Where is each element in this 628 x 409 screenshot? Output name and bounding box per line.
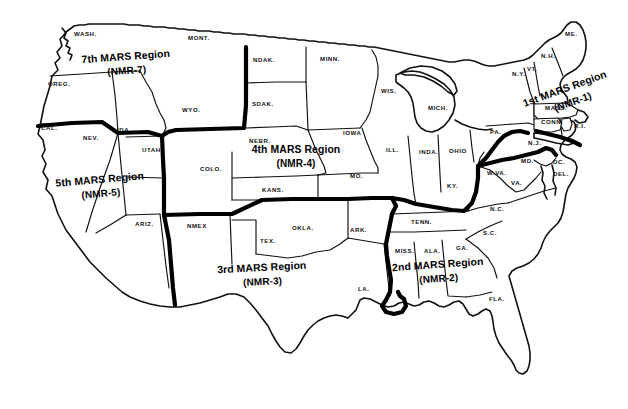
state-label: IDA. bbox=[117, 126, 131, 133]
region-boundary-mississippi bbox=[382, 198, 406, 314]
region-label-nmr-4: 4th MARS Region(NMR-4) bbox=[252, 144, 341, 169]
state-label: UTAH bbox=[142, 146, 161, 153]
puget-sound-coast bbox=[62, 28, 72, 60]
state-label: N.J. bbox=[528, 139, 541, 146]
border-nd-sd bbox=[246, 82, 306, 83]
region-name: 5th MARS Region bbox=[55, 170, 144, 189]
state-label: NDAK. bbox=[253, 56, 275, 63]
state-label: CONN. bbox=[541, 118, 563, 125]
region-name: 7th MARS Region bbox=[81, 48, 170, 65]
state-label: ME. bbox=[565, 30, 577, 37]
lake-erie-shore bbox=[455, 120, 492, 130]
border-ind-ohio bbox=[438, 135, 441, 192]
state-label: WASH. bbox=[74, 30, 97, 37]
state-label: ARIZ. bbox=[135, 220, 154, 227]
border-ohio-pa bbox=[470, 130, 474, 162]
border-ut-az bbox=[126, 214, 160, 215]
region-boundary-4-3 bbox=[164, 198, 392, 215]
region-label-nmr-3: 3rd MARS Region(NMR-3) bbox=[217, 260, 307, 290]
border-nmex-tex bbox=[230, 214, 232, 264]
region-boundary-5-3 bbox=[164, 178, 175, 305]
state-label: R.I. bbox=[574, 122, 586, 129]
state-label: MINN. bbox=[320, 55, 340, 62]
border-ny-pa bbox=[486, 123, 538, 126]
border-tenn-ala-ga bbox=[390, 230, 466, 232]
state-label: S.C. bbox=[483, 229, 497, 236]
state-label: N.C. bbox=[490, 205, 504, 212]
state-label: VA. bbox=[511, 179, 522, 186]
border-ark-la bbox=[348, 238, 384, 244]
border-okla-tex-panhandle bbox=[232, 220, 256, 254]
state-label: PA. bbox=[490, 128, 501, 135]
border-minn-wis bbox=[360, 50, 378, 128]
border-ill-ind bbox=[408, 136, 416, 204]
state-label: INDA. bbox=[419, 148, 438, 155]
state-label: W.VA. bbox=[487, 169, 507, 176]
state-label: TENN. bbox=[411, 218, 432, 225]
state-label: OHIO bbox=[449, 147, 467, 154]
region-labels-layer: 7th MARS Region(NMR-7)5th MARS Region(NM… bbox=[55, 48, 613, 289]
border-nebr-kans bbox=[232, 175, 318, 178]
state-label: VT. bbox=[527, 65, 537, 72]
state-label: ILL. bbox=[386, 146, 399, 153]
border-id-mont bbox=[140, 71, 166, 136]
region-code: (NMR-3) bbox=[243, 275, 283, 288]
region-code: (NMR-5) bbox=[81, 186, 121, 200]
state-label: NEV. bbox=[83, 134, 99, 141]
state-label: TEX. bbox=[260, 237, 276, 244]
region-name: 2nd MARS Region bbox=[392, 256, 484, 273]
state-label: OKLA. bbox=[292, 224, 314, 231]
great-lakes-coast bbox=[396, 71, 455, 132]
state-label: IOWA bbox=[343, 129, 361, 136]
region-name: 3rd MARS Region bbox=[217, 260, 307, 276]
state-label: LA. bbox=[358, 285, 369, 292]
region-code: (NMR-4) bbox=[276, 158, 315, 169]
region-label-nmr-7: 7th MARS Region(NMR-7) bbox=[81, 48, 171, 79]
region-code: (NMR-7) bbox=[107, 64, 147, 78]
state-label: WYO. bbox=[182, 106, 200, 113]
state-label: N.Y. bbox=[512, 70, 525, 77]
state-label: N.H. bbox=[541, 52, 555, 59]
state-label: NEBR. bbox=[249, 137, 271, 144]
border-iowa-ill bbox=[362, 128, 378, 173]
mars-region-map: WASH.OREG.CAL.NEV.IDA.MONT.WYO.UTAHARIZ.… bbox=[0, 0, 628, 409]
border-nv-az bbox=[96, 215, 126, 233]
state-label: WIS. bbox=[381, 87, 396, 94]
us-map-svg: WASH.OREG.CAL.NEV.IDA.MONT.WYO.UTAHARIZ.… bbox=[0, 0, 628, 409]
state-label: MONT. bbox=[188, 34, 210, 41]
state-label: DEL. bbox=[553, 170, 569, 177]
state-label: COLO. bbox=[200, 165, 222, 172]
border-sd-minn-iowa bbox=[306, 82, 308, 130]
border-or-id bbox=[112, 72, 118, 133]
state-label: ARK. bbox=[350, 226, 367, 233]
state-label: KY. bbox=[447, 182, 458, 189]
state-label: DC. bbox=[553, 158, 565, 165]
state-label: NMEX bbox=[187, 222, 207, 229]
state-label: CAL. bbox=[41, 124, 57, 131]
state-label: MISS. bbox=[395, 247, 414, 254]
state-label: ALA. bbox=[424, 247, 440, 254]
state-label: MICH. bbox=[428, 104, 448, 111]
region-boundary-7-4 bbox=[162, 47, 246, 136]
region-name: 4th MARS Region bbox=[252, 144, 341, 155]
state-label: OREG. bbox=[48, 80, 70, 87]
state-label: GA. bbox=[456, 244, 468, 251]
border-sd-nebr bbox=[246, 126, 308, 130]
michigan-upper-peninsula bbox=[400, 66, 457, 95]
border-iowa-mo bbox=[318, 173, 378, 175]
state-label: KANS. bbox=[262, 186, 284, 193]
state-label: MO. bbox=[350, 172, 363, 179]
state-label: FLA. bbox=[489, 295, 505, 302]
state-label: SDAK. bbox=[252, 100, 274, 107]
state-label: MD. bbox=[521, 157, 534, 164]
region-label-nmr-2: 2nd MARS Region(NMR-2) bbox=[392, 256, 485, 287]
